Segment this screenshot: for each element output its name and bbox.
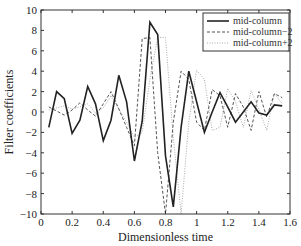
y-tick-label: 0 <box>32 106 38 118</box>
x-tick-label: 0.8 <box>159 216 173 228</box>
x-tick-label: 1.2 <box>221 216 235 228</box>
y-tick-label: −8 <box>25 188 37 200</box>
x-tick-label: 1.4 <box>252 216 266 228</box>
x-axis-label: Dimensionless time <box>118 230 213 244</box>
y-tick-label: −6 <box>25 167 37 179</box>
legend-label-mid-column-plus-2: mid-column+2 <box>233 37 293 48</box>
y-tick-label: 6 <box>32 45 38 57</box>
y-tick-label: 2 <box>32 86 38 98</box>
x-tick-label: 0 <box>38 216 44 228</box>
series-line-dotted <box>49 38 282 215</box>
line-chart: 00.20.40.60.811.21.41.6−10−8−6−4−2024681… <box>0 0 301 246</box>
y-tick-label: −10 <box>20 208 38 220</box>
series-line-dashed <box>49 38 282 215</box>
y-tick-label: 10 <box>26 4 38 16</box>
x-tick-label: 0.4 <box>96 216 110 228</box>
legend-label-mid-column: mid-column <box>233 15 282 26</box>
y-tick-label: −2 <box>25 126 37 138</box>
x-tick-label: 1 <box>194 216 200 228</box>
legend-label-mid-column-minus-2: mid-column−2 <box>233 26 293 37</box>
y-tick-label: −4 <box>25 147 37 159</box>
x-tick-label: 1.6 <box>283 216 297 228</box>
y-tick-label: 8 <box>32 24 38 36</box>
x-tick-label: 0.6 <box>128 216 142 228</box>
y-axis-label: Filter coefficients <box>2 69 16 154</box>
x-tick-label: 0.2 <box>65 216 79 228</box>
y-tick-label: 4 <box>32 65 38 77</box>
legend: mid-column mid-column−2 mid-column+2 <box>203 13 293 51</box>
